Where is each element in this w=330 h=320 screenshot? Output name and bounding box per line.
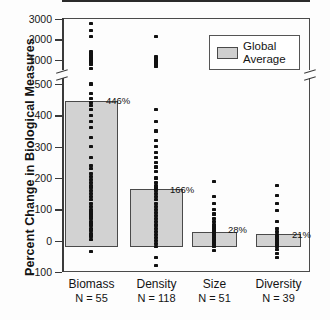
y-tick-200 — [55, 178, 62, 179]
y-tick-label-0: 0 — [6, 235, 52, 247]
data-point — [275, 194, 278, 197]
y-tick-label-500: 500 — [6, 78, 52, 90]
y-tick-label-1000: 1000 — [6, 54, 52, 66]
chart-figure: Percent Change in Biological Measures -1… — [0, 0, 330, 320]
value-label-size: 28% — [228, 224, 247, 235]
y-tick-label-400: 400 — [6, 109, 52, 121]
data-point — [154, 35, 157, 38]
y-tick--100 — [55, 272, 62, 273]
data-point — [89, 238, 92, 241]
data-point — [89, 167, 92, 170]
data-point — [275, 227, 278, 230]
y-tick-label-200: 200 — [6, 172, 52, 184]
y-tick-300 — [55, 147, 62, 148]
data-point — [89, 114, 92, 117]
data-point — [89, 29, 92, 32]
data-point — [275, 256, 278, 259]
data-point — [275, 209, 278, 212]
data-point — [89, 97, 92, 100]
x-category-name: Diversity — [234, 277, 324, 291]
legend: Global Average — [209, 35, 300, 70]
data-point — [89, 120, 92, 123]
y-tick-500 — [55, 84, 62, 85]
data-point — [154, 108, 157, 111]
value-label-density: 166% — [170, 184, 194, 195]
data-point — [154, 151, 157, 154]
legend-label-line2: Average — [243, 53, 286, 66]
data-point — [275, 220, 278, 223]
legend-label-line1: Global — [243, 40, 286, 53]
x-category-diversity: DiversityN = 39 — [234, 277, 324, 305]
y-axis-line — [62, 18, 64, 272]
data-point — [89, 136, 92, 139]
legend-label-global-average: Global Average — [243, 40, 286, 66]
data-point — [89, 92, 92, 95]
data-point — [89, 35, 92, 38]
data-point — [275, 252, 278, 255]
data-point — [154, 256, 157, 259]
data-point — [154, 129, 157, 132]
data-point — [89, 108, 92, 111]
data-point — [212, 180, 215, 183]
legend-swatch-global-average — [217, 47, 238, 59]
data-point — [212, 249, 215, 252]
data-point — [154, 120, 157, 123]
x-category-sample-size: N = 39 — [234, 291, 324, 305]
data-point — [154, 156, 157, 159]
data-point — [89, 250, 92, 253]
data-point — [212, 212, 215, 215]
data-point — [154, 165, 157, 168]
data-point — [275, 248, 278, 251]
data-point — [154, 245, 157, 248]
data-point — [154, 161, 157, 164]
y-tick-label-300: 300 — [6, 141, 52, 153]
y-tick-1000 — [55, 60, 62, 61]
data-point — [89, 22, 92, 25]
data-point — [154, 176, 157, 179]
data-point — [89, 156, 92, 159]
value-label-diversity: 21% — [292, 229, 311, 240]
data-point — [154, 139, 157, 142]
y-tick-3000 — [55, 19, 62, 20]
y-tick-0 — [55, 241, 62, 242]
y-tick-100 — [55, 209, 62, 210]
value-label-biomass: 446% — [106, 95, 130, 106]
data-point — [212, 208, 215, 211]
data-point — [89, 126, 92, 129]
y-tick-label-2000: 2000 — [6, 33, 52, 45]
y-tick-400 — [55, 115, 62, 116]
data-point — [275, 202, 278, 205]
y-tick-label-100: 100 — [6, 203, 52, 215]
y-tick-label--100: -100 — [6, 266, 52, 278]
data-point — [89, 82, 92, 85]
y-tick-2000 — [55, 39, 62, 40]
zero-baseline — [62, 0, 310, 2]
data-point — [212, 202, 215, 205]
y-tick-label-3000: 3000 — [6, 13, 52, 25]
